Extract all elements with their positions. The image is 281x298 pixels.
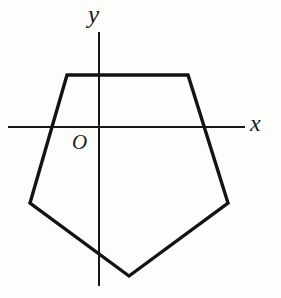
- geometry-figure: y x O: [0, 0, 281, 298]
- origin-label: O: [72, 132, 87, 153]
- pentagon-shape: [30, 75, 228, 276]
- coordinate-plane-canvas: [0, 0, 281, 298]
- y-axis-label: y: [88, 2, 99, 27]
- x-axis-label: x: [250, 111, 261, 135]
